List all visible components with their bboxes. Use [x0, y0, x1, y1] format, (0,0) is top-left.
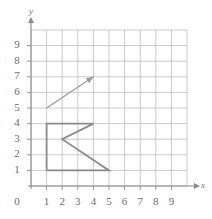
x-tick-label: 4 — [91, 195, 97, 207]
x-axis-label: x — [200, 180, 205, 190]
y-tick-label: 5 — [14, 101, 20, 113]
y-tick-label: 1 — [14, 163, 20, 175]
y-tick-label: 2 — [14, 147, 20, 159]
x-tick-label: 3 — [75, 195, 81, 207]
origin-label: 0 — [14, 195, 20, 207]
figure-canvas: 123456789123456789 x y 0 — [0, 0, 212, 219]
x-tick-label: 5 — [106, 195, 112, 207]
x-tick-label: 8 — [153, 195, 159, 207]
y-tick-label: 4 — [14, 116, 20, 128]
y-tick-label: 7 — [14, 69, 20, 81]
y-tick-label: 9 — [14, 38, 20, 50]
x-tick-label: 9 — [169, 195, 175, 207]
coordinate-grid-figure: 123456789123456789 x y 0 — [0, 0, 212, 219]
x-tick-label: 1 — [44, 195, 50, 207]
x-tick-label: 6 — [122, 195, 128, 207]
y-tick-label: 3 — [14, 132, 20, 144]
x-tick-label: 2 — [59, 195, 65, 207]
y-tick-label: 8 — [14, 54, 20, 66]
x-tick-label: 7 — [137, 195, 143, 207]
y-axis-label: y — [28, 6, 33, 16]
y-tick-label: 6 — [14, 85, 20, 97]
